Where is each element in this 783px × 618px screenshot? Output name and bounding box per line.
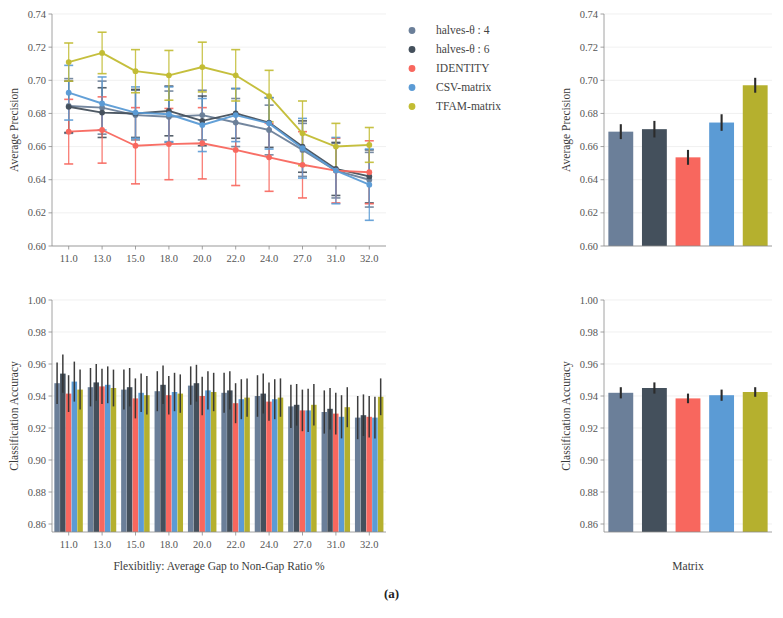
ap-line-xtick-label: 15.0: [126, 253, 144, 264]
ap-line-marker: [199, 122, 205, 128]
acc-bar-rect: [709, 395, 734, 532]
legend-label-halves6: halves-θ : 6: [436, 43, 490, 55]
figure-caption: (a): [0, 586, 783, 602]
acc-group-bar: [244, 398, 250, 532]
acc-group-bar: [160, 385, 166, 532]
acc-bar-rect: [743, 392, 768, 532]
ap-line-marker: [366, 142, 372, 148]
acc-group-bar: [93, 382, 99, 532]
ap-line-marker: [333, 168, 339, 174]
ap-bar-ytick-label: 0.60: [580, 241, 598, 252]
acc-group-bar: [144, 395, 150, 532]
acc-group-bar: [88, 387, 94, 532]
acc-group-bar: [127, 387, 133, 532]
acc-bar-ytick-label: 1.00: [580, 295, 598, 306]
ap-line-marker: [133, 110, 139, 116]
acc-bar-ytick-label: 0.96: [580, 359, 598, 370]
acc-group-bar: [172, 392, 178, 532]
acc-group-ytick-label: 0.92: [28, 423, 46, 434]
ap-line-marker: [66, 104, 72, 110]
acc-group-bar: [278, 398, 284, 532]
acc-group-ytick-label: 0.88: [28, 487, 46, 498]
ap-bar-rect: [676, 157, 701, 246]
acc-group-bar: [378, 397, 384, 532]
acc-group-xtick-label: 24.0: [260, 539, 278, 550]
ap-bar-rect: [709, 123, 734, 246]
acc-bar-ytick-label: 0.86: [580, 519, 598, 530]
acc-bar-ytick-label: 0.92: [580, 423, 598, 434]
ap-line-marker: [366, 169, 372, 175]
acc-group-bar: [155, 391, 161, 532]
ap-line-ytick-label: 0.60: [28, 241, 46, 252]
ap-line-marker: [266, 120, 272, 126]
acc-group-bar: [54, 383, 60, 532]
ap-line-marker: [99, 110, 105, 116]
ap-line-marker: [199, 112, 205, 118]
legend-label-csv: CSV-matrix: [436, 81, 491, 93]
legend-marker-halves4: [409, 27, 416, 34]
ap-line-marker: [133, 143, 139, 149]
acc-group-xtick-label: 20.0: [193, 539, 211, 550]
legend-marker-halves6: [409, 46, 416, 53]
acc-group-bar: [221, 393, 227, 532]
legend-marker-tfam: [409, 103, 416, 110]
acc-group-xtick-label: 31.0: [327, 539, 345, 550]
acc-group-xtick-label: 32.0: [360, 539, 378, 550]
legend-label-identity: IDENTITY: [436, 62, 490, 74]
ap-bar-ytick-label: 0.70: [580, 75, 598, 86]
ap-line-marker: [233, 72, 239, 78]
ap-bar-ytick-label: 0.74: [580, 9, 599, 20]
acc-group-ytick-label: 0.90: [28, 455, 46, 466]
acc-bar-ytick-label: 0.88: [580, 487, 598, 498]
acc-group-bar: [121, 390, 127, 532]
acc-group-bar: [105, 385, 111, 532]
ap-line-ytick-label: 0.74: [28, 9, 47, 20]
acc-bar-ytick-label: 0.98: [580, 327, 598, 338]
acc-group-bar: [77, 390, 83, 532]
ap-line-xtick-label: 22.0: [227, 253, 245, 264]
ap-line-marker: [233, 120, 239, 126]
acc-bar-ytick-label: 0.90: [580, 455, 598, 466]
acc-group-bar: [166, 395, 172, 532]
ap-line-marker: [166, 141, 172, 147]
ap-line-marker: [66, 59, 72, 65]
acc-group-ytick-label: 0.94: [28, 391, 47, 402]
legend-marker-identity: [409, 65, 416, 72]
acc-group-bar: [194, 383, 200, 532]
ap-line-ytick-label: 0.70: [28, 75, 46, 86]
acc-bar-ytick-label: 0.94: [580, 391, 599, 402]
acc-bar-rect: [676, 398, 701, 532]
ap-line-marker: [300, 162, 306, 168]
ap-line-series-csv-matrix: [69, 93, 370, 185]
ap-line-xtick-label: 27.0: [293, 253, 311, 264]
acc-group-xtick-label: 11.0: [60, 539, 78, 550]
ap-bar-rect: [608, 132, 633, 246]
acc-group-bar: [205, 390, 211, 532]
ap-line-marker: [366, 182, 372, 188]
ap-line-marker: [66, 90, 72, 96]
acc-group-xlabel: Flexibitliy: Average Gap to Non-Gap Rati…: [113, 560, 325, 573]
ap-line-marker: [99, 101, 105, 107]
ap-line-ytick-label: 0.62: [28, 207, 46, 218]
ap-line-ytick-label: 0.66: [28, 141, 46, 152]
ap-line-marker: [233, 112, 239, 118]
acc-group-xtick-label: 22.0: [227, 539, 245, 550]
ap-line-ylabel: Average Precision: [8, 88, 21, 172]
ap-bar-rect: [743, 85, 768, 246]
acc-group-bar: [266, 402, 272, 532]
ap-line-xtick-label: 13.0: [93, 253, 111, 264]
ap-line-xtick-label: 20.0: [193, 253, 211, 264]
acc-bar-rect: [642, 388, 667, 532]
acc-group-xtick-label: 15.0: [126, 539, 144, 550]
ap-line-marker: [166, 72, 172, 78]
ap-line-marker: [199, 140, 205, 146]
acc-group-bar: [72, 382, 78, 532]
legend-label-halves4: halves-θ : 4: [436, 24, 490, 36]
acc-group-bar: [178, 394, 184, 532]
acc-group-bar: [66, 394, 72, 532]
ap-line-ytick-label: 0.72: [28, 42, 46, 53]
ap-line-marker: [133, 68, 139, 74]
ap-bar-ytick-label: 0.62: [580, 207, 598, 218]
ap-line-xtick-label: 32.0: [360, 253, 378, 264]
acc-group-ytick-label: 1.00: [28, 295, 46, 306]
